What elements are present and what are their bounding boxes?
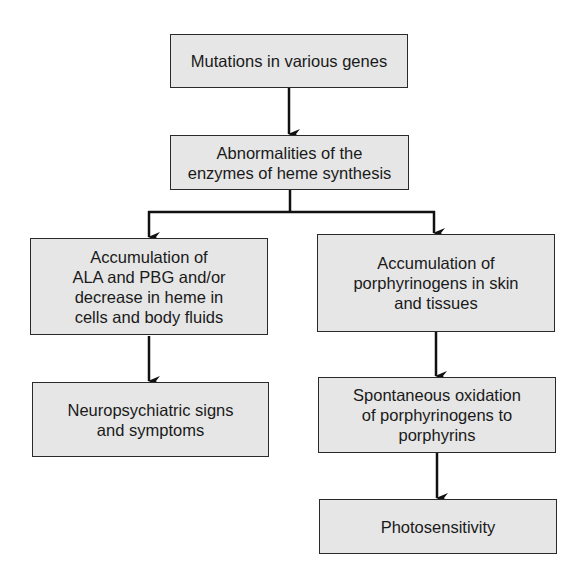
node-mutations: Mutations in various genes xyxy=(170,34,408,88)
node-accumulation-ala: Accumulation of ALA and PBG and/or decre… xyxy=(30,238,268,335)
node-label: Spontaneous oxidation of porphyrinogens … xyxy=(353,385,521,445)
node-label: Abnormalities of the enzymes of heme syn… xyxy=(188,143,392,183)
node-photosensitivity: Photosensitivity xyxy=(319,499,557,554)
node-neuropsychiatric: Neuropsychiatric signs and symptoms xyxy=(32,382,269,457)
node-label: Accumulation of ALA and PBG and/or decre… xyxy=(72,247,225,327)
node-label: Neuropsychiatric signs and symptoms xyxy=(68,400,234,440)
node-abnormalities: Abnormalities of the enzymes of heme syn… xyxy=(170,135,409,190)
node-oxidation: Spontaneous oxidation of porphyrinogens … xyxy=(318,377,556,453)
node-accumulation-porphyrinogens: Accumulation of porphyrinogens in skin a… xyxy=(317,234,555,332)
node-label: Mutations in various genes xyxy=(191,51,387,71)
node-label: Photosensitivity xyxy=(381,517,496,537)
node-label: Accumulation of porphyrinogens in skin a… xyxy=(353,253,518,313)
